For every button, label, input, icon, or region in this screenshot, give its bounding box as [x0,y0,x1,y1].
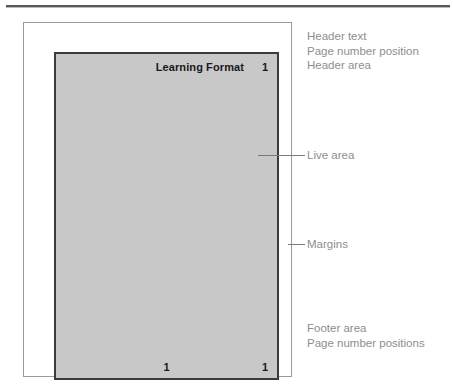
top-divider-rule-shadow [6,7,450,8]
page-trim-frame: Learning Format 1 1 1 [23,22,292,377]
footer-page-number-right: 1 [262,361,268,373]
live-area-block: Learning Format 1 1 1 [54,52,279,380]
annotation-header-group: Header text Page number position Header … [307,29,419,73]
annotation-footer-group: Footer area Page number positions [307,321,425,350]
page-header-row: Learning Format 1 [56,59,277,75]
annotation-margins: Margins [307,237,348,252]
annotation-header-text: Header text [307,29,419,44]
annotation-footer-area: Footer area [307,321,425,336]
annotation-page-number-position: Page number position [307,44,419,59]
annotation-page-number-positions: Page number positions [307,336,425,351]
annotation-live-area: Live area [307,148,354,163]
margins-leader-line [288,244,305,245]
live-area-leader-line [258,155,305,156]
header-page-number: 1 [261,61,268,73]
annotation-header-area: Header area [307,58,419,73]
footer-page-number-center: 1 [56,361,277,373]
page-footer-row: 1 1 [56,357,277,373]
header-title-text: Learning Format [156,61,244,73]
